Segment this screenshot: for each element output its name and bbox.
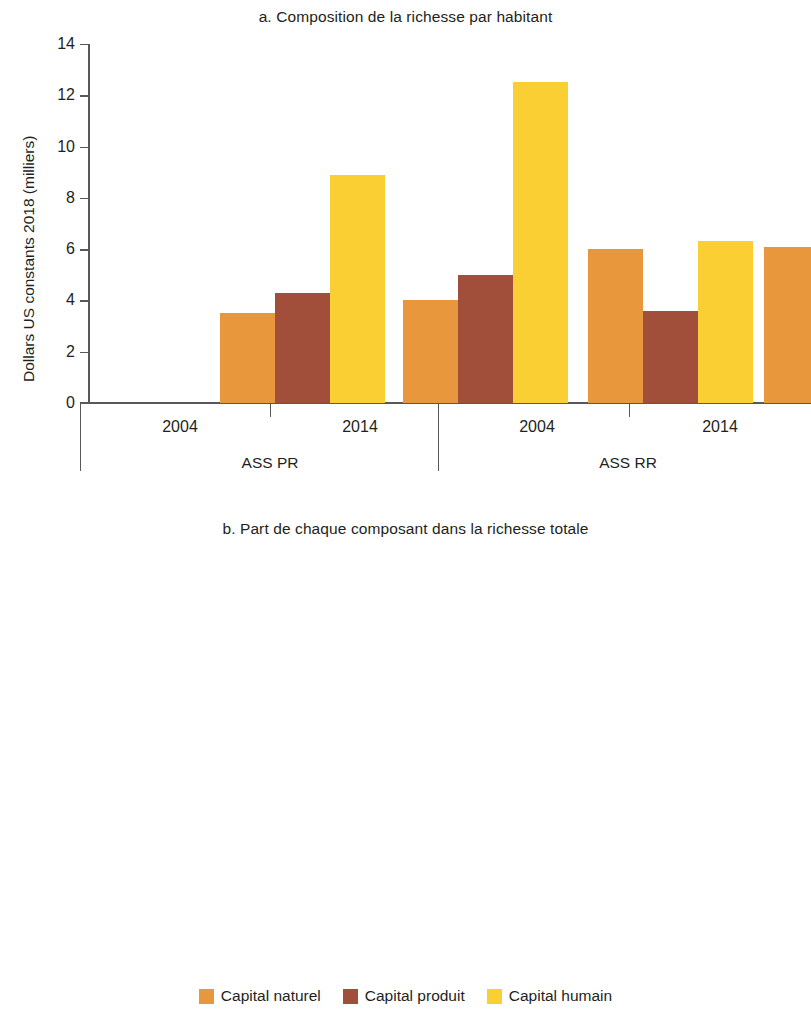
bar-capital-humain [513, 82, 568, 403]
bar-capital-produit [458, 275, 513, 403]
y-tick-label: 6 [66, 241, 75, 257]
bar-capital-produit [643, 311, 698, 403]
panel-b-title: b. Part de chaque composant dans la rich… [0, 520, 811, 538]
legend-item: Capital humain [487, 987, 612, 1005]
x-tick-label-year: 2004 [519, 418, 555, 436]
y-tick-label: 10 [57, 139, 75, 155]
bar-capital-produit [275, 293, 330, 403]
y-tick-mark [80, 300, 88, 301]
legend-item: Capital produit [343, 987, 465, 1005]
bar-capital-naturel [764, 247, 811, 403]
panel-a-y-axis-label: Dollars US constants 2018 (milliers) [20, 136, 38, 382]
group-separator [438, 403, 439, 471]
x-tick-label-year: 2004 [162, 418, 198, 436]
x-axis-tick [270, 403, 271, 417]
x-axis-group-label: ASS RR [599, 454, 657, 472]
panel-a-y-axis-line [88, 44, 90, 403]
legend-label: Capital produit [365, 987, 465, 1005]
legend-swatch-human [487, 989, 502, 1004]
y-tick-label: 14 [57, 36, 75, 52]
y-tick-label: 12 [57, 87, 75, 103]
legend-label: Capital humain [509, 987, 612, 1005]
panel-a-category-axis: 20042014ASS PR20042014ASS RR [80, 403, 811, 495]
panel-a-plot-area: 02468101214 [88, 44, 811, 403]
y-tick-mark [80, 198, 88, 199]
legend-swatch-produced [343, 989, 358, 1004]
y-tick-label: 2 [66, 344, 75, 360]
panel-b-stacked-bar-chart: b. Part de chaque composant dans la rich… [0, 510, 811, 975]
x-tick-label-year: 2014 [342, 418, 378, 436]
bar-capital-naturel [403, 300, 458, 403]
x-axis-tick [629, 403, 630, 417]
y-tick-mark [80, 44, 88, 45]
bar-capital-humain [698, 241, 753, 403]
x-axis-group-label: ASS PR [242, 454, 299, 472]
y-tick-label: 0 [66, 395, 75, 411]
y-tick-mark [80, 352, 88, 353]
chart-legend: Capital naturelCapital produitCapital hu… [0, 987, 811, 1005]
y-tick-mark [80, 95, 88, 96]
bar-capital-naturel [588, 249, 643, 403]
legend-label: Capital naturel [221, 987, 321, 1005]
bar-capital-humain [330, 175, 385, 403]
x-tick-label-year: 2014 [702, 418, 738, 436]
y-tick-mark [80, 147, 88, 148]
y-tick-label: 4 [66, 292, 75, 308]
legend-swatch-natural [199, 989, 214, 1004]
y-tick-label: 8 [66, 190, 75, 206]
panel-a-title: a. Composition de la richesse par habita… [0, 8, 811, 26]
axis-left-cap [80, 403, 81, 471]
panel-a-grouped-bar-chart: a. Composition de la richesse par habita… [0, 0, 811, 495]
bar-capital-naturel [220, 313, 275, 403]
legend-item: Capital naturel [199, 987, 321, 1005]
y-tick-mark [80, 249, 88, 250]
